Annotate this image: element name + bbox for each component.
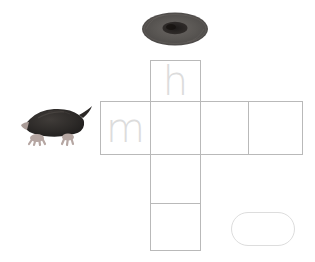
grid-cell-column-2[interactable] [150,101,201,155]
mole-top-view-image [140,10,210,48]
mole-side-view-image [18,100,98,150]
grid-cell-column-3[interactable] [150,154,201,204]
answer-pill[interactable] [231,212,295,246]
grid-cell-row-3[interactable] [200,101,249,155]
trace-letter-h: h [151,61,200,101]
grid-cell-m[interactable]: m [100,101,151,155]
grid-cell-column-4[interactable] [150,203,201,251]
worksheet-page: h m [0,0,315,262]
grid-cell-h[interactable]: h [150,60,201,102]
trace-letter-m: m [101,108,150,148]
grid-cell-row-4[interactable] [248,101,303,155]
